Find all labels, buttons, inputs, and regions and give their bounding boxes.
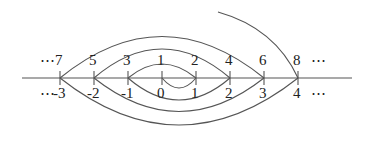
svg-text:-2: -2 — [87, 85, 100, 101]
arcs — [60, 12, 298, 125]
arc-top-4 — [218, 12, 298, 78]
svg-text:1: 1 — [157, 52, 165, 68]
svg-text:5: 5 — [89, 52, 97, 68]
svg-text:2: 2 — [191, 52, 199, 68]
svg-text:6: 6 — [259, 52, 267, 68]
svg-text:7: 7 — [55, 52, 63, 68]
svg-text:0: 0 — [157, 85, 165, 101]
svg-text:-3: -3 — [53, 85, 66, 101]
svg-text:⋯: ⋯ — [40, 52, 55, 68]
svg-text:⋯: ⋯ — [311, 85, 326, 101]
svg-text:3: 3 — [259, 85, 267, 101]
bijection-diagram: ⋯ 7 5 3 1 2 4 6 8 ⋯ ⋯ -3 -2 -1 0 1 2 3 4… — [0, 0, 370, 152]
svg-text:2: 2 — [225, 85, 233, 101]
top-labels: ⋯ 7 5 3 1 2 4 6 8 ⋯ — [40, 52, 326, 68]
svg-text:3: 3 — [123, 52, 131, 68]
arc-bottom-1 — [128, 78, 230, 100]
svg-text:-1: -1 — [121, 85, 134, 101]
svg-text:4: 4 — [225, 52, 233, 68]
svg-text:8: 8 — [293, 52, 301, 68]
svg-text:⋯: ⋯ — [311, 52, 326, 68]
svg-text:1: 1 — [191, 85, 199, 101]
arc-bottom-2 — [94, 78, 264, 112]
svg-text:4: 4 — [293, 85, 301, 101]
